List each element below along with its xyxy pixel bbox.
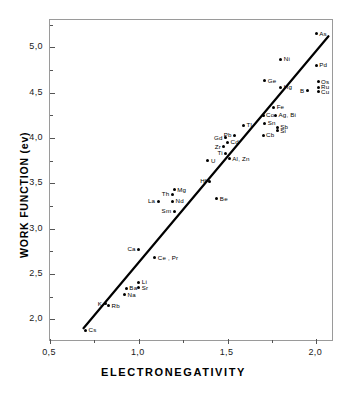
point-label-sr: Sr [142, 284, 149, 290]
x-tick-label-1,0: 1,0 [118, 347, 158, 357]
point-label-li: Li [142, 279, 147, 285]
point-label-ru: Ru [321, 84, 329, 90]
y-tick-2,0 [50, 319, 55, 320]
data-point-nd [171, 200, 174, 203]
data-point-hg [279, 86, 282, 89]
y-tick-label-2,5: 2,5 [9, 268, 43, 278]
point-label-mg: Mg [177, 187, 186, 193]
data-point-pb [233, 134, 236, 137]
y-tick-minor [50, 206, 53, 207]
point-label-pd: Pd [319, 62, 327, 68]
point-label-sn: Sn [268, 120, 276, 126]
data-point-co [262, 114, 265, 117]
point-label-u: U [211, 157, 216, 163]
data-point-cu [317, 90, 320, 93]
y-tick-label-5,0: 5,0 [9, 41, 43, 51]
data-point-cd [226, 141, 229, 144]
point-label-zr: Zr [215, 144, 221, 150]
x-axis-title: ELECTRONEGATIVITY [0, 366, 347, 378]
data-point-os [317, 80, 320, 83]
y-tick-minor [50, 251, 53, 252]
y-tick-label-4,5: 4,5 [9, 87, 43, 97]
data-point-cs [84, 329, 87, 332]
point-label-al-zn: Al, Zn [232, 156, 249, 162]
data-point-pd [315, 64, 318, 67]
data-point-th [171, 193, 174, 196]
x-tick-minor [183, 340, 184, 343]
point-label-fe: Fe [277, 104, 285, 110]
data-point-as [315, 32, 318, 35]
point-label-hg: Hg [284, 84, 292, 90]
fit-line [50, 20, 332, 340]
point-label-cd: Cd [231, 139, 239, 145]
y-tick-minor [50, 161, 53, 162]
y-tick-3,5 [50, 183, 55, 184]
y-tick-4,0 [50, 138, 55, 139]
plot-area: CsKRbNaBaSrLiCaCe , PrLaSmNdThMgBeHfUTiZ… [50, 20, 332, 340]
y-tick-5,0 [50, 47, 55, 48]
point-label-rb: Rb [112, 303, 120, 309]
point-label-th: Th [162, 191, 170, 197]
point-label-as: As [319, 30, 327, 36]
y-tick-4,5 [50, 93, 55, 94]
point-label-la: La [148, 198, 155, 204]
y-tick-minor [50, 25, 53, 26]
point-label-pb: Pb [224, 132, 232, 138]
data-point-cb [262, 134, 265, 137]
point-label-nd: Nd [175, 198, 183, 204]
point-label-ba: Ba [129, 285, 137, 291]
data-point-mg [173, 188, 176, 191]
point-label-gd: Gd [214, 135, 223, 141]
point-label-k: K [98, 301, 102, 307]
point-label-ce-pr: Ce , Pr [158, 255, 179, 261]
x-tick-0,5 [50, 339, 51, 344]
data-point-li [137, 281, 140, 284]
point-label-hf: Hf [200, 178, 207, 184]
x-tick-1,0 [139, 339, 140, 344]
data-point-ag-bi [274, 114, 277, 117]
point-label-na: Na [128, 292, 136, 298]
y-tick-label-2,0: 2,0 [9, 313, 43, 323]
y-tick-minor [50, 115, 53, 116]
y-tick-3,0 [50, 229, 55, 230]
data-point-fe [272, 106, 275, 109]
y-tick-minor [50, 297, 53, 298]
y-axis-title: WORK FUNCTION (ev) [18, 242, 30, 258]
data-point-ru [317, 86, 320, 89]
data-point-la [157, 200, 160, 203]
point-label-tl: Tl [246, 122, 252, 128]
x-tick-minor [94, 340, 95, 343]
figure-root: CsKRbNaBaSrLiCaCe , PrLaSmNdThMgBeHfUTiZ… [0, 0, 347, 394]
point-label-cs: Cs [89, 327, 97, 333]
y-tick-2,5 [50, 274, 55, 275]
x-tick-1,5 [228, 339, 229, 344]
point-label-b: B [300, 88, 304, 94]
point-label-ti: Ti [217, 150, 222, 156]
x-tick-minor [272, 340, 273, 343]
x-tick-label-0,5: 0,5 [29, 347, 69, 357]
data-point-sm [173, 210, 176, 213]
point-label-be: Be [220, 196, 228, 202]
point-label-ge: Ge [268, 78, 277, 84]
data-point-si [276, 129, 279, 132]
y-tick-minor [50, 70, 53, 71]
point-label-cb: Cb [266, 132, 274, 138]
point-label-ni: Ni [284, 56, 290, 62]
x-tick-label-2,0: 2,0 [295, 347, 335, 357]
point-label-sm: Sm [162, 208, 172, 214]
point-label-os: Os [321, 79, 329, 85]
data-point-tl [242, 124, 245, 127]
plot-frame: CsKRbNaBaSrLiCaCe , PrLaSmNdThMgBeHfUTiZ… [49, 19, 333, 341]
data-point-ba [125, 287, 128, 290]
x-tick-2,0 [316, 339, 317, 344]
data-point-sb [276, 126, 279, 129]
data-point-ni [279, 58, 282, 61]
point-label-si: Si [280, 128, 286, 134]
x-tick-label-1,5: 1,5 [207, 347, 247, 357]
point-label-ca: Ca [127, 246, 135, 252]
point-label-ag-bi: Ag, Bi [278, 112, 296, 118]
